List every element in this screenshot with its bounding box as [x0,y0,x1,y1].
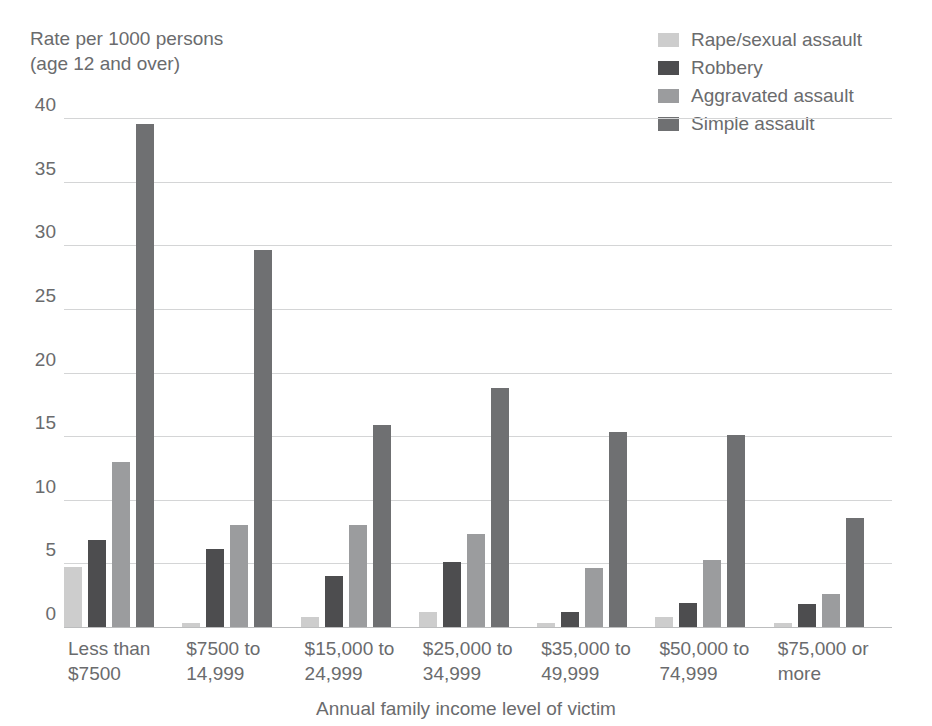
bar-group-1 [182,118,300,627]
bar-0-0 [64,567,82,627]
x-category-label-4: $35,000 to 49,999 [537,636,655,686]
bar-3-3 [491,388,509,627]
bar-6-0 [774,623,792,627]
bar-group-3 [419,118,537,627]
gridline-0 [64,627,892,628]
y-tick-10: 10 [35,477,56,500]
legend-item-label: Rape/sexual assault [691,29,862,51]
bar-5-0 [655,617,673,627]
bar-2-3 [373,425,391,627]
x-category-label-3: $25,000 to 34,999 [419,636,537,686]
bar-6-2 [822,594,840,627]
y-tick-0: 0 [45,604,56,627]
bar-5-3 [727,435,745,627]
bar-1-1 [206,549,224,627]
y-axis-title: Rate per 1000 persons (age 12 and over) [30,26,223,76]
x-axis-category-labels: Less than $7500$7500 to 14,999$15,000 to… [64,636,892,686]
y-tick-35: 35 [35,159,56,182]
bar-2-0 [301,617,319,627]
bar-group-6 [774,118,892,627]
bar-0-3 [136,124,154,627]
x-category-label-2: $15,000 to 24,999 [301,636,419,686]
bar-1-0 [182,623,200,627]
y-axis-tick-labels: 0510152025303540 [0,118,56,627]
x-category-label-0: Less than $7500 [64,636,182,686]
y-tick-25: 25 [35,286,56,309]
x-category-label-5: $50,000 to 74,999 [655,636,773,686]
bar-0-2 [112,462,130,627]
bar-2-2 [349,525,367,627]
legend-swatch-icon [658,89,679,103]
legend-item-1: Robbery [658,54,920,82]
bar-5-1 [679,603,697,627]
bar-4-1 [561,612,579,627]
x-category-label-6: $75,000 or more [774,636,892,686]
bar-2-1 [325,576,343,627]
legend-item-label: Robbery [691,57,763,79]
bar-series-container [64,118,892,627]
bar-5-2 [703,560,721,627]
x-axis-title: Annual family income level of victim [0,698,932,720]
bar-3-2 [467,534,485,627]
bar-1-2 [230,525,248,627]
bar-0-1 [88,540,106,627]
bar-3-0 [419,612,437,627]
bar-group-2 [301,118,419,627]
bar-4-0 [537,623,555,627]
y-tick-5: 5 [45,540,56,563]
legend-item-2: Aggravated assault [658,82,920,110]
bar-1-3 [254,250,272,627]
y-tick-15: 15 [35,413,56,436]
legend-swatch-icon [658,33,679,47]
bar-group-4 [537,118,655,627]
legend-item-0: Rape/sexual assault [658,26,920,54]
bar-group-0 [64,118,182,627]
y-tick-40: 40 [35,95,56,118]
legend-swatch-icon [658,61,679,75]
x-category-label-1: $7500 to 14,999 [182,636,300,686]
bar-group-5 [655,118,773,627]
bar-4-2 [585,568,603,627]
bar-6-3 [846,518,864,627]
bar-6-1 [798,604,816,627]
y-tick-20: 20 [35,350,56,373]
legend-item-label: Aggravated assault [691,85,854,107]
bar-3-1 [443,562,461,627]
bar-4-3 [609,432,627,627]
y-tick-30: 30 [35,222,56,245]
